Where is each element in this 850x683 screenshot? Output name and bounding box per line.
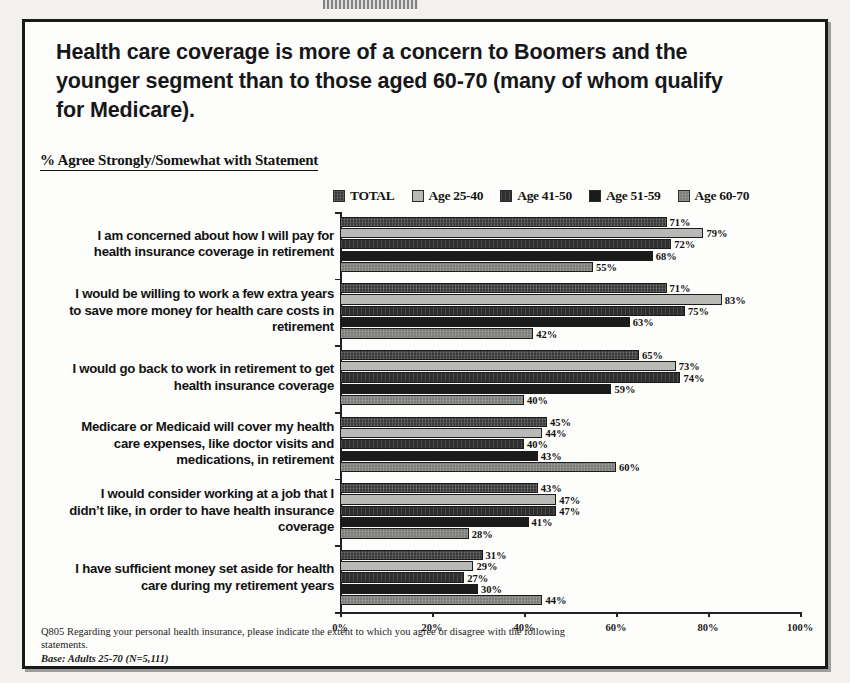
slide-frame: Health care coverage is more of a concer… (22, 19, 828, 669)
bar-value-label: 75% (685, 305, 709, 316)
bar-value-label: 71% (667, 216, 691, 227)
bar-value-label: 42% (533, 328, 557, 339)
bar-value-label: 73% (676, 361, 700, 372)
bar-row: 44% (340, 595, 800, 605)
bar-value-label: 29% (473, 561, 497, 572)
bar[interactable] (340, 328, 533, 338)
bar[interactable] (340, 451, 538, 461)
legend-item-age-60-70[interactable]: Age 60-70 (678, 188, 750, 204)
bar[interactable] (340, 439, 524, 449)
bar[interactable] (340, 306, 685, 316)
bar[interactable] (340, 239, 671, 249)
bar-row: 83% (340, 294, 800, 304)
bar[interactable] (340, 361, 676, 371)
bar-group: 31%29%27%30%44% (340, 545, 800, 612)
category-label: I would consider working at a job that I… (69, 486, 334, 536)
x-axis-tick-label: 100% (787, 622, 813, 633)
bar-row: 40% (340, 439, 800, 449)
legend-label: Age 60-70 (695, 188, 750, 204)
legend-item-total[interactable]: TOTAL (333, 188, 395, 204)
bar-value-label: 43% (538, 483, 562, 494)
bar-value-label: 79% (703, 227, 727, 238)
bar-value-label: 43% (538, 450, 562, 461)
bar-row: 29% (340, 561, 800, 571)
bar-row: 74% (340, 372, 800, 382)
bar[interactable] (340, 384, 611, 394)
bar-value-label: 28% (469, 528, 493, 539)
page-title: Health care coverage is more of a concer… (56, 38, 756, 125)
bar-row: 71% (340, 283, 800, 293)
bar[interactable] (340, 217, 667, 227)
bar-row: 63% (340, 317, 800, 327)
bar[interactable] (340, 228, 703, 238)
bar[interactable] (340, 483, 538, 493)
bar[interactable] (340, 417, 547, 427)
bar[interactable] (340, 283, 667, 293)
bar-row: 30% (340, 584, 800, 594)
bar[interactable] (340, 572, 464, 582)
bar-row: 43% (340, 483, 800, 493)
bar[interactable] (340, 528, 469, 538)
category-label: Medicare or Medicaid will cover my healt… (69, 419, 334, 469)
bar-row: 47% (340, 494, 800, 504)
bar[interactable] (340, 462, 616, 472)
bar-row: 75% (340, 306, 800, 316)
category-label: I have sufficient money set aside for he… (69, 561, 334, 594)
legend-label: Age 51-59 (606, 188, 661, 204)
bar[interactable] (340, 395, 524, 405)
bar-row: 65% (340, 350, 800, 360)
bar-group: 65%73%74%59%40% (340, 345, 800, 412)
bar-row: 47% (340, 506, 800, 516)
bar-value-label: 47% (556, 505, 580, 516)
bar[interactable] (340, 517, 529, 527)
bar-row: 42% (340, 328, 800, 338)
bar-value-label: 44% (542, 595, 566, 606)
bar[interactable] (340, 251, 653, 261)
legend-swatch-icon (500, 190, 512, 202)
legend-item-age-41-50[interactable]: Age 41-50 (500, 188, 572, 204)
bar-row: 60% (340, 462, 800, 472)
bar-value-label: 45% (547, 416, 571, 427)
bar-value-label: 72% (671, 239, 695, 250)
bar-row: 27% (340, 572, 800, 582)
bar-value-label: 40% (524, 439, 548, 450)
bar-row: 71% (340, 217, 800, 227)
legend-item-age-51-59[interactable]: Age 51-59 (589, 188, 661, 204)
bar[interactable] (340, 561, 473, 571)
bar[interactable] (340, 584, 478, 594)
legend-item-age-25-40[interactable]: Age 25-40 (412, 188, 484, 204)
y-axis-tick (335, 612, 340, 614)
bar[interactable] (340, 262, 593, 272)
bar-group: 71%83%75%63%42% (340, 279, 800, 346)
bar[interactable] (340, 294, 722, 304)
footnote-base: Base: Adults 25-70 (N=5,111) (41, 653, 601, 666)
bar[interactable] (340, 317, 630, 327)
legend-label: Age 41-50 (517, 188, 572, 204)
legend-swatch-icon (333, 190, 345, 202)
bar[interactable] (340, 595, 542, 605)
bar-row: 68% (340, 251, 800, 261)
bar[interactable] (340, 506, 556, 516)
bar[interactable] (340, 550, 483, 560)
bar-group: 71%79%72%68%55% (340, 212, 800, 279)
bar-row: 43% (340, 451, 800, 461)
bar-value-label: 71% (667, 283, 691, 294)
legend-swatch-icon (678, 190, 690, 202)
chart-legend: TOTALAge 25-40Age 41-50Age 51-59Age 60-7… (333, 188, 749, 204)
bar-value-label: 63% (630, 317, 654, 328)
x-axis-tick (616, 612, 618, 617)
bar[interactable] (340, 350, 639, 360)
bar[interactable] (340, 494, 556, 504)
category-label: I would go back to work in retirement to… (69, 361, 334, 394)
footnote: Q805 Regarding your personal health insu… (41, 626, 601, 665)
category-axis-labels: I am concerned about how I will pay for … (67, 212, 334, 612)
legend-label: Age 25-40 (429, 188, 484, 204)
bar[interactable] (340, 428, 542, 438)
bar-value-label: 27% (464, 572, 488, 583)
bar[interactable] (340, 372, 680, 382)
chart-plot-area: 0%20%40%60%80%100%71%79%72%68%55%71%83%7… (340, 212, 800, 612)
bar-row: 28% (340, 528, 800, 538)
bar-row: 40% (340, 395, 800, 405)
x-axis-tick (340, 612, 342, 617)
bar-value-label: 41% (529, 517, 553, 528)
